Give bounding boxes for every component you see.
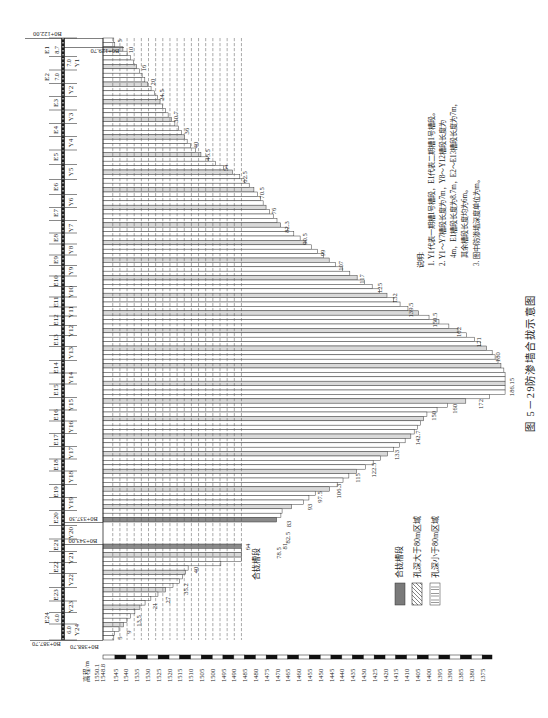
depth-label: 139.5 <box>407 302 414 318</box>
slot-label-y22: Y22 <box>67 573 75 586</box>
slot-depth-bar <box>103 280 365 284</box>
depth-label: 115 <box>354 472 361 482</box>
elevation-tick-label: 1535 <box>133 668 140 682</box>
slot-depth-bar <box>103 377 505 381</box>
depth-label: 30.7 <box>172 110 179 122</box>
slot-label-e11: E11 <box>52 296 60 308</box>
elevation-tick-label: 1430 <box>360 668 367 682</box>
elevation-tick-label: 1380 <box>468 668 475 682</box>
legend-label-deep: 孔深大于80m区域 <box>412 516 422 578</box>
slot-depth-bar <box>103 583 173 587</box>
elevation-scale-segment <box>266 655 277 659</box>
depth-label: 27 <box>164 596 171 603</box>
depth-label: 160 <box>451 403 458 414</box>
slot-depth-bar <box>103 179 245 183</box>
elevation-tick-label: 1495 <box>220 668 227 682</box>
slot-label-y18: Y18 <box>67 470 75 483</box>
elevation-scale-segment <box>201 655 212 659</box>
slot-label-e5: E5 <box>52 153 60 161</box>
slot-depth-bar <box>103 166 223 170</box>
slot-depth-bar <box>103 359 498 363</box>
elevation-scale-segment <box>115 655 126 659</box>
station-mark-129: B0+129.70 <box>91 48 120 55</box>
slot-label-y1: Y1 <box>73 58 81 67</box>
slot-depth-bar <box>103 117 171 121</box>
slot-depth-bar <box>103 496 309 500</box>
depth-label: 97.5 <box>316 491 323 503</box>
elevation-scale-segment <box>363 655 374 659</box>
depth-label: 132 <box>391 293 398 303</box>
elevation-tick-label: 1410 <box>403 668 410 682</box>
slot-depth-bar <box>103 544 241 548</box>
notes-heading: 说明: <box>416 252 425 268</box>
slot-label-e3: E3 <box>52 99 60 107</box>
note-line-5: 3. 图中防渗墙深度单位为m。 <box>472 176 481 266</box>
elevation-tick-label: 1520 <box>166 668 173 682</box>
elevation-tick-label: 1375 <box>479 668 486 682</box>
depth-label: 150.5 <box>431 312 438 328</box>
slot-label-e13: E13 <box>52 334 60 346</box>
slot-depth-bar <box>103 447 394 451</box>
depth-label: 24.5 <box>158 89 165 101</box>
slot-depth-bar <box>103 214 273 218</box>
slot-label-e24: E24 <box>43 612 51 624</box>
elevation-scale-segment <box>277 655 288 659</box>
slot-depth-bar <box>103 390 505 394</box>
elevation-scale-segment <box>396 655 407 659</box>
slot-depth-bar <box>103 412 427 416</box>
slot-label-e15: E15 <box>52 384 60 396</box>
elevation-scale-segment <box>385 655 396 659</box>
elevation-tick-label: 1395 <box>436 668 443 682</box>
depth-label: 76 <box>270 207 277 214</box>
elevation-tick-label: 1515 <box>176 668 183 682</box>
slot-label-e7: E7 <box>52 209 60 217</box>
elevation-axis-title: 高程/m <box>82 660 91 682</box>
slot-label-e4: E4 <box>52 126 60 134</box>
depth-label: 122.5 <box>370 462 377 478</box>
slot-depth-bar <box>103 254 323 258</box>
elevation-tick-label: 1455 <box>306 668 313 682</box>
slot-label-e20: E20 <box>52 512 60 524</box>
station-ruler: E18.7E27.0E3E4E5E6E7E8E9E10E11E12E13E14E… <box>43 38 81 640</box>
slot-depth-bar <box>103 504 292 508</box>
slot-depth-bar <box>103 320 439 324</box>
elevation-scale-segment <box>137 655 148 659</box>
slot-depth-bar <box>103 60 133 64</box>
slot-depth-bar <box>103 302 400 306</box>
slot-depth-bar <box>103 298 394 302</box>
elevation-scale-segment <box>320 655 331 659</box>
legend-swatch-shallow <box>430 583 440 605</box>
slot-depth-bar <box>103 95 157 99</box>
slot-depth-bar <box>103 386 505 390</box>
slot-depth-bar <box>103 592 158 596</box>
slot-depth-bar <box>103 500 303 504</box>
notes-block: 说明: 1. Y1代表一期槽1号槽段，E1代表二期槽1号槽段。 2. Y1～Y7… <box>416 100 481 269</box>
closure-slot-annotation: 合拢槽段 <box>251 548 261 580</box>
slot-depth-bar <box>103 553 241 557</box>
station-mark-387: B0+387.70 <box>32 641 61 648</box>
slot-label-y9: Y9 <box>67 266 75 275</box>
slot-depth-bar <box>103 627 119 631</box>
depth-label: 82.5 <box>284 531 291 543</box>
slot-depth-bar <box>103 403 447 407</box>
depth-label: 93 <box>306 503 313 510</box>
slot-depth-bar <box>103 430 414 434</box>
elevation-tick-label: 1525 <box>155 668 162 682</box>
slot-depth-bar <box>103 135 184 139</box>
slot-depth-bar <box>103 421 421 425</box>
slot-label-y15: Y15 <box>67 398 75 411</box>
slot-label-e17: E17 <box>52 434 60 446</box>
slot-label-y6: Y6 <box>67 197 75 206</box>
slot-depth-bar <box>103 174 240 178</box>
slot-depth-bar <box>103 284 372 288</box>
depth-label: 20 <box>149 78 156 85</box>
slot-label-y2: Y2 <box>67 85 75 94</box>
slot-depth-bar <box>103 218 277 222</box>
slot-length-e24: 6.0 <box>53 614 60 622</box>
slot-depth-bar <box>103 452 387 456</box>
slot-depth-bar <box>103 478 343 482</box>
elevation-tick-label: 1385 <box>457 668 464 682</box>
elevation-tick-label: 1548.8 <box>99 663 106 682</box>
slot-depth-bar <box>103 73 142 77</box>
legend-label-closure: 合拢槽段 <box>394 546 404 578</box>
